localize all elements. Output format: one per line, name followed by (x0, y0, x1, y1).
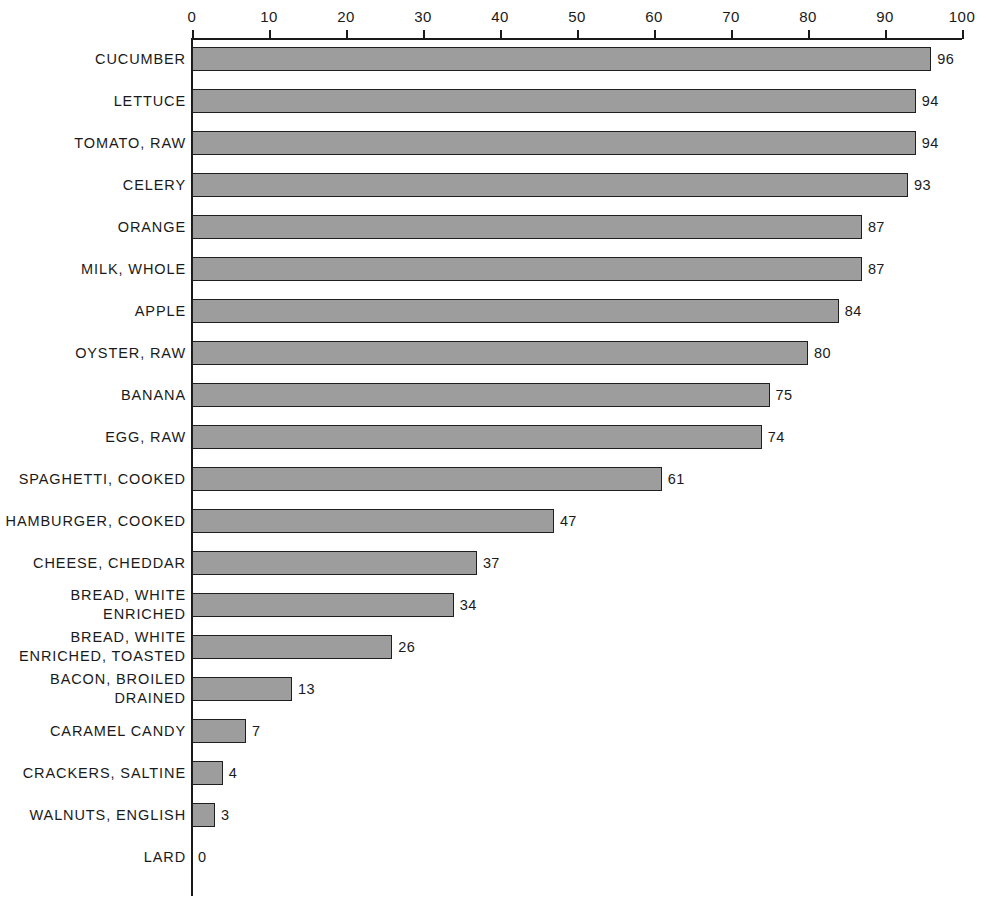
bar-value-label: 94 (922, 122, 939, 164)
bar-row: CARAMEL CANDY7 (0, 710, 988, 752)
bar-category-label-line: CUCUMBER (95, 50, 186, 69)
bar-category-label-line: WALNUTS, ENGLISH (30, 806, 186, 825)
bar-track: 37 (192, 542, 988, 584)
bar-value-label: 94 (922, 80, 939, 122)
bar (192, 803, 215, 827)
bar-value-label: 26 (398, 626, 415, 668)
bar-category-label: APPLE (135, 290, 186, 332)
bar-value-label: 0 (198, 836, 206, 878)
bar-category-label-line: BANANA (121, 386, 186, 405)
bar-category-label: SPAGHETTI, COOKED (19, 458, 186, 500)
bar-value-label: 61 (668, 458, 685, 500)
bar-category-label: MILK, WHOLE (81, 248, 186, 290)
bar-category-label-line: CELERY (123, 176, 186, 195)
bar-row: WALNUTS, ENGLISH3 (0, 794, 988, 836)
bar-row: CHEESE, CHEDDAR37 (0, 542, 988, 584)
bar-category-label-line: MILK, WHOLE (81, 260, 186, 279)
bar-category-label-line: CRACKERS, SALTINE (23, 764, 186, 783)
bar-chart: 0102030405060708090100 CUCUMBER96LETTUCE… (0, 0, 988, 918)
bar (192, 131, 916, 155)
axis-tick-label: 60 (645, 8, 663, 25)
bar-value-label: 4 (229, 752, 237, 794)
bar-category-label-line: ENRICHED (103, 605, 186, 624)
bar-category-label: WALNUTS, ENGLISH (30, 794, 186, 836)
bar-row: APPLE84 (0, 290, 988, 332)
bar (192, 593, 454, 617)
bar-track: 61 (192, 458, 988, 500)
bar-track: 93 (192, 164, 988, 206)
axis-tick-label: 50 (568, 8, 586, 25)
bar-track: 96 (192, 38, 988, 80)
bar-track: 75 (192, 374, 988, 416)
bar (192, 257, 862, 281)
bar (192, 173, 908, 197)
bar-row: OYSTER, RAW80 (0, 332, 988, 374)
bar (192, 719, 246, 743)
bar-value-label: 34 (460, 584, 477, 626)
bar (192, 677, 292, 701)
bar-value-label: 13 (298, 668, 315, 710)
axis-tick-label: 90 (876, 8, 894, 25)
bar-track: 0 (192, 836, 988, 878)
bar-category-label: BACON, BROILEDDRAINED (50, 668, 186, 710)
bar-value-label: 3 (221, 794, 229, 836)
bar (192, 635, 392, 659)
bar-value-label: 74 (768, 416, 785, 458)
bar-category-label: CELERY (123, 164, 186, 206)
bar-track: 3 (192, 794, 988, 836)
bar-row: ORANGE87 (0, 206, 988, 248)
bar-track: 74 (192, 416, 988, 458)
bar-category-label: CUCUMBER (95, 38, 186, 80)
bar (192, 425, 762, 449)
bar-category-label-line: TOMATO, RAW (74, 134, 186, 153)
bar-value-label: 96 (937, 38, 954, 80)
bar-category-label-line: APPLE (135, 302, 186, 321)
bar-category-label-line: LARD (144, 848, 186, 867)
bar-category-label-line: DRAINED (114, 689, 186, 708)
bar-row: HAMBURGER, COOKED47 (0, 500, 988, 542)
axis-tick-label: 40 (491, 8, 509, 25)
bar-rows: CUCUMBER96LETTUCE94TOMATO, RAW94CELERY93… (0, 38, 988, 878)
axis-tick-label: 70 (722, 8, 740, 25)
bar-category-label: ORANGE (118, 206, 186, 248)
bar-track: 80 (192, 332, 988, 374)
bar-category-label-line: ORANGE (118, 218, 186, 237)
axis-tick-label: 10 (260, 8, 278, 25)
axis-tick-label: 0 (188, 8, 197, 25)
bar-value-label: 84 (845, 290, 862, 332)
bar-category-label: BREAD, WHITEENRICHED, TOASTED (19, 626, 186, 668)
bar (192, 761, 223, 785)
bar-value-label: 87 (868, 248, 885, 290)
bar-value-label: 37 (483, 542, 500, 584)
bar-row: MILK, WHOLE87 (0, 248, 988, 290)
bar-category-label-line: BREAD, WHITE (70, 628, 186, 647)
bar-value-label: 87 (868, 206, 885, 248)
bar (192, 467, 662, 491)
bar-category-label: LETTUCE (114, 80, 186, 122)
bar-row: BREAD, WHITEENRICHED34 (0, 584, 988, 626)
bar-track: 87 (192, 248, 988, 290)
bar-track: 94 (192, 122, 988, 164)
axis-tick-label: 80 (799, 8, 817, 25)
bar-row: TOMATO, RAW94 (0, 122, 988, 164)
bar-value-label: 7 (252, 710, 260, 752)
bar-row: BREAD, WHITEENRICHED, TOASTED26 (0, 626, 988, 668)
bar-category-label: EGG, RAW (105, 416, 186, 458)
bar-value-label: 47 (560, 500, 577, 542)
bar-row: LETTUCE94 (0, 80, 988, 122)
bar-category-label-line: HAMBURGER, COOKED (6, 512, 186, 531)
bar-track: 94 (192, 80, 988, 122)
bar-row: BANANA75 (0, 374, 988, 416)
bar (192, 383, 770, 407)
bar-category-label: CHEESE, CHEDDAR (33, 542, 186, 584)
bar-category-label: HAMBURGER, COOKED (6, 500, 186, 542)
bar-category-label-line: CARAMEL CANDY (50, 722, 186, 741)
bar-category-label-line: EGG, RAW (105, 428, 186, 447)
bar (192, 551, 477, 575)
bar-category-label: BANANA (121, 374, 186, 416)
axis-tick-label: 20 (337, 8, 355, 25)
bar-track: 4 (192, 752, 988, 794)
bar-value-label: 75 (776, 374, 793, 416)
bar-category-label-line: LETTUCE (114, 92, 186, 111)
bar (192, 341, 808, 365)
